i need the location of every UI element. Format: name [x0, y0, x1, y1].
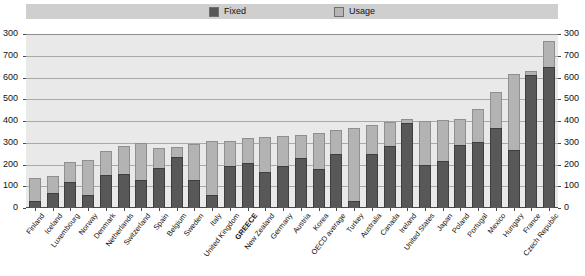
x-axis-tick — [212, 208, 213, 211]
y-axis-tick-label-right: 0 — [560, 203, 585, 212]
x-axis-tick — [177, 208, 178, 211]
bar-segment-fixed — [401, 123, 413, 208]
x-axis-tick — [478, 208, 479, 211]
bar-segment-usage — [29, 178, 41, 202]
y-axis-tick — [558, 186, 561, 187]
y-axis-tick-label-left: 300 — [0, 29, 22, 38]
x-axis-tick — [301, 208, 302, 211]
chart-legend: Fixed Usage — [26, 4, 558, 19]
y-axis-tick — [558, 143, 561, 144]
x-axis-tick — [265, 208, 266, 211]
bar-segment-usage — [384, 122, 396, 146]
x-axis-tick — [106, 208, 107, 211]
y-axis-tick-label-left: 400 — [0, 116, 22, 125]
bar-stack — [295, 135, 307, 208]
bar-segment-fixed — [366, 154, 378, 208]
y-axis-tick — [558, 78, 561, 79]
legend-item-usage: Usage — [334, 7, 375, 17]
bar-stack — [543, 41, 555, 208]
bar-stack — [525, 71, 537, 208]
x-axis-tick — [514, 208, 515, 211]
bar-segment-usage — [224, 141, 236, 166]
bar-segment-fixed — [171, 157, 183, 208]
x-axis-tick — [390, 208, 391, 211]
bar-segment-usage — [259, 137, 271, 172]
bar-segment-usage — [348, 128, 360, 202]
bar-segment-fixed — [82, 195, 94, 208]
y-axis-tick-label-right: 100 — [560, 181, 585, 190]
bar-segment-fixed — [153, 168, 165, 208]
y-axis-tick — [23, 78, 26, 79]
x-axis-tick — [460, 208, 461, 211]
bar-stack — [206, 141, 218, 208]
y-axis-tick-label-right: 400 — [560, 116, 585, 125]
x-axis-tick — [354, 208, 355, 211]
bar-stack — [366, 125, 378, 208]
bar-stack — [64, 162, 76, 208]
y-axis-tick-label-right: 600 — [560, 73, 585, 82]
y-axis-tick-label-right: 300 — [560, 138, 585, 147]
bar-stack — [277, 136, 289, 208]
bar-segment-usage — [543, 41, 555, 67]
y-axis-tick — [23, 186, 26, 187]
legend-label-fixed: Fixed — [224, 7, 246, 16]
bar-segment-fixed — [543, 67, 555, 208]
y-axis-tick-label-left: 500 — [0, 94, 22, 103]
x-axis-tick — [549, 208, 550, 211]
bar-stack — [82, 160, 94, 208]
bar-stack — [135, 143, 147, 208]
bar-segment-usage — [454, 119, 466, 145]
bar-segment-usage — [135, 143, 147, 180]
x-axis-tick — [194, 208, 195, 211]
bar-segment-usage — [437, 120, 449, 161]
x-axis-tick — [35, 208, 36, 211]
bar-segment-usage — [295, 135, 307, 158]
bar-segment-usage — [188, 144, 200, 180]
bar-segment-fixed — [419, 165, 431, 209]
bar-segment-fixed — [295, 158, 307, 208]
y-axis-tick-label-left: 100 — [0, 181, 22, 190]
y-axis-tick — [23, 208, 26, 209]
bar-segment-usage — [100, 151, 112, 175]
y-axis-tick — [558, 34, 561, 35]
y-axis-tick — [23, 34, 26, 35]
bar-segment-fixed — [490, 128, 502, 208]
bar-segment-usage — [118, 146, 130, 174]
bar-segment-usage — [206, 141, 218, 195]
x-axis-tick — [372, 208, 373, 211]
bar-segment-usage — [82, 160, 94, 195]
x-axis-tick — [70, 208, 71, 211]
bar-segment-usage — [330, 130, 342, 154]
bar-stack — [313, 133, 325, 208]
legend-item-fixed: Fixed — [209, 7, 246, 17]
x-axis-tick — [443, 208, 444, 211]
bar-segment-usage — [490, 92, 502, 128]
bar-segment-fixed — [437, 161, 449, 208]
bar-stack — [454, 119, 466, 208]
bar-stack — [100, 151, 112, 208]
bar-segment-fixed — [118, 174, 130, 208]
bar-stack — [153, 148, 165, 208]
bar-stack — [384, 122, 396, 208]
y-axis-tick-label-right: 500 — [560, 94, 585, 103]
bar-segment-fixed — [330, 154, 342, 208]
bar-stack — [401, 119, 413, 208]
x-axis-tick — [336, 208, 337, 211]
y-axis-tick — [23, 99, 26, 100]
x-axis-tick — [283, 208, 284, 211]
bar-segment-usage — [171, 147, 183, 157]
square-swatch-icon — [334, 7, 344, 17]
y-axis-tick — [558, 208, 561, 209]
x-axis-tick — [319, 208, 320, 211]
bar-segment-fixed — [242, 163, 254, 208]
x-axis-tick — [230, 208, 231, 211]
bar-stack — [188, 144, 200, 208]
bar-segment-fixed — [454, 145, 466, 208]
bar-segment-fixed — [472, 142, 484, 208]
bar-segment-usage — [508, 74, 520, 150]
bar-segment-usage — [419, 121, 431, 165]
y-axis-tick — [23, 121, 26, 122]
y-axis-tick — [23, 165, 26, 166]
y-axis-tick-label-right: 700 — [560, 51, 585, 60]
bar-segment-fixed — [313, 169, 325, 208]
